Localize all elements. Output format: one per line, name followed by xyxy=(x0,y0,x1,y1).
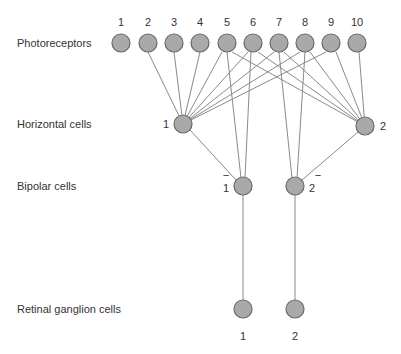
photoreceptor-cell xyxy=(244,34,262,52)
ganglion-cell-row: 1 2 xyxy=(234,300,304,342)
photoreceptor-row: 1 2 3 4 5 6 7 8 9 10 xyxy=(112,16,366,52)
row-label-photoreceptors: Photoreceptors xyxy=(17,37,92,49)
photoreceptor-number: 5 xyxy=(224,16,230,28)
bipolar-cell-number: 1 xyxy=(223,182,229,194)
ganglion-cell xyxy=(286,300,304,318)
ganglion-cell xyxy=(234,300,252,318)
photoreceptor-number: 2 xyxy=(145,16,151,28)
horizontal-cell xyxy=(356,117,374,135)
photoreceptor-number: 8 xyxy=(302,16,308,28)
row-label-bipolar-cells: Bipolar cells xyxy=(17,180,77,192)
row-label-ganglion-cells: Retinal ganglion cells xyxy=(17,303,121,315)
bipolar-cell xyxy=(234,177,252,195)
ganglion-cell-number: 1 xyxy=(240,330,246,342)
bipolar-cell-sign: − xyxy=(315,169,321,181)
photoreceptor-cell xyxy=(296,34,314,52)
photoreceptor-number: 7 xyxy=(276,16,282,28)
connections xyxy=(148,52,365,300)
photoreceptor-number: 3 xyxy=(171,16,177,28)
photoreceptor-number: 10 xyxy=(351,16,363,28)
row-label-horizontal-cells: Horizontal cells xyxy=(17,118,92,130)
photoreceptor-cell xyxy=(348,34,366,52)
retina-circuit-diagram: Photoreceptors Horizontal cells Bipolar … xyxy=(0,0,401,354)
ganglion-cell-number: 2 xyxy=(292,330,298,342)
bipolar-cell xyxy=(286,177,304,195)
photoreceptor-cell xyxy=(165,34,183,52)
bipolar-cell-sign: − xyxy=(223,169,229,181)
photoreceptor-cell xyxy=(112,34,130,52)
photoreceptor-cell xyxy=(322,34,340,52)
horizontal-cell-number: 2 xyxy=(380,120,386,132)
bipolar-cell-number: 2 xyxy=(309,182,315,194)
photoreceptor-cell xyxy=(191,34,209,52)
photoreceptor-number: 4 xyxy=(197,16,203,28)
horizontal-cell-number: 1 xyxy=(163,118,169,130)
photoreceptor-number: 9 xyxy=(328,16,334,28)
photoreceptor-cell xyxy=(139,34,157,52)
photoreceptor-number: 6 xyxy=(250,16,256,28)
horizontal-cell xyxy=(174,115,192,133)
photoreceptor-cell xyxy=(270,34,288,52)
photoreceptor-cell xyxy=(218,34,236,52)
photoreceptor-number: 1 xyxy=(118,16,124,28)
bipolar-cell-row: 1 − 2 − xyxy=(223,169,321,195)
